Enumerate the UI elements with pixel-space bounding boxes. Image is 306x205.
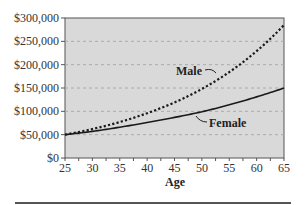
bottom-rule (15, 202, 291, 204)
y-tick-label: $100,000 (14, 104, 59, 118)
x-axis: 253035404550556065 (59, 158, 290, 175)
x-tick-label: 55 (223, 161, 235, 175)
y-tick-label: $200,000 (14, 58, 59, 72)
x-tick-label: 45 (169, 161, 181, 175)
y-axis: $0$50,000$100,000$150,000$200,000$250,00… (14, 11, 65, 165)
y-tick-label: $300,000 (14, 11, 59, 25)
male-series-label: Male (176, 64, 203, 78)
x-tick-label: 50 (196, 161, 208, 175)
x-tick-label: 30 (86, 161, 98, 175)
y-tick-label: $150,000 (14, 81, 59, 95)
x-axis-title: Age (165, 175, 186, 189)
y-tick-label: $50,000 (20, 128, 59, 142)
x-tick-label: 60 (251, 161, 263, 175)
y-tick-label: $0 (47, 151, 59, 165)
x-tick-label: 35 (114, 161, 126, 175)
female-series-label: Female (209, 116, 247, 130)
y-tick-label: $250,000 (14, 34, 59, 48)
x-tick-label: 65 (278, 161, 290, 175)
x-tick-label: 25 (59, 161, 71, 175)
line-chart: $0$50,000$100,000$150,000$200,000$250,00… (0, 0, 306, 205)
x-tick-label: 40 (141, 161, 153, 175)
